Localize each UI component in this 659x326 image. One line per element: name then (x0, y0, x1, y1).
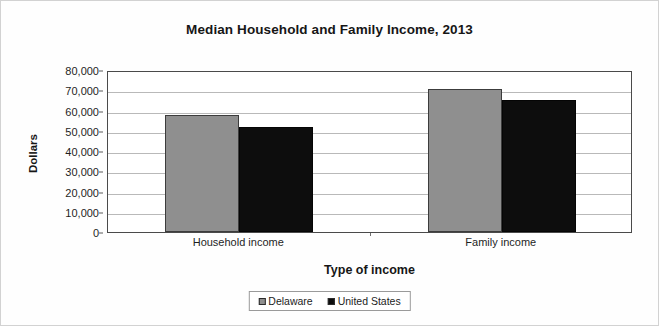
y-axis-tick-mark (99, 152, 103, 153)
y-axis-tick-label: 70,000 (65, 85, 99, 97)
legend-item-label: Delaware (268, 295, 312, 307)
bar-delaware-family-income (428, 89, 502, 232)
x-axis-tick-label: Household income (193, 236, 284, 248)
chart-title: Median Household and Family Income, 2013 (1, 22, 658, 37)
y-axis-tick-label: 50,000 (65, 126, 99, 138)
y-axis-tick-mark (99, 71, 103, 72)
x-axis-tick-label: Family income (465, 236, 536, 248)
x-axis-title: Type of income (107, 263, 632, 277)
y-axis-tick-label: 10,000 (65, 207, 99, 219)
y-axis-tick-mark (99, 172, 103, 173)
bar-delaware-household-income (165, 115, 239, 232)
y-axis-tick-mark (99, 212, 103, 213)
y-axis-tick-labels: 010,00020,00030,00040,00050,00060,00070,… (49, 71, 103, 233)
bar-united-states-family-income (502, 100, 576, 232)
bars-layer (108, 72, 631, 232)
legend-item-united-states[interactable]: United States (328, 295, 401, 307)
y-axis-tick-label: 30,000 (65, 166, 99, 178)
y-axis-tick-label: 60,000 (65, 106, 99, 118)
y-axis-tick-mark (99, 111, 103, 112)
chart-legend: DelawareUnited States (248, 291, 410, 311)
y-axis-tick-mark (99, 131, 103, 132)
legend-item-label: United States (338, 295, 401, 307)
y-axis-tick-label: 80,000 (65, 65, 99, 77)
y-axis-tick-label: 40,000 (65, 146, 99, 158)
x-axis-tick-labels: Household incomeFamily income (107, 236, 632, 252)
bar-united-states-household-income (239, 127, 313, 232)
plot-area (107, 71, 632, 233)
y-axis-tick-label: 20,000 (65, 187, 99, 199)
x-axis-tick-mark (370, 233, 371, 236)
y-axis-title: Dollars (24, 111, 42, 197)
legend-swatch-us-icon (328, 298, 335, 305)
y-axis-tick-mark (99, 233, 103, 234)
y-axis-tick-mark (99, 91, 103, 92)
legend-item-delaware[interactable]: Delaware (258, 295, 312, 307)
legend-swatch-delaware-icon (258, 298, 265, 305)
chart-figure: Median Household and Family Income, 2013… (0, 0, 659, 326)
y-axis-tick-mark (99, 192, 103, 193)
